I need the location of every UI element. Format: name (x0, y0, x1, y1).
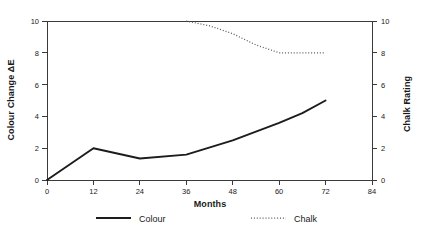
x-tick-label-12: 12 (89, 187, 97, 196)
chart-legend: Colour Chalk (96, 214, 318, 224)
x-tick-label-60: 60 (275, 187, 283, 196)
right-tick-label-4: 4 (381, 112, 385, 121)
x-tick-label-72: 72 (321, 187, 329, 196)
x-axis-title: Months (194, 199, 227, 209)
y-axis-title: Colour Change ΔE (6, 59, 16, 140)
x-tick-label-0: 0 (45, 187, 49, 196)
x-tick-label-84: 84 (368, 187, 376, 196)
left-tick-label-4: 4 (35, 112, 39, 121)
right-tick-label-10: 10 (381, 17, 389, 26)
plot-frame (47, 21, 372, 180)
right-tick-label-0: 0 (381, 176, 385, 185)
left-tick-label-8: 8 (35, 49, 39, 58)
legend-label-colour: Colour (139, 214, 166, 224)
left-tick-label-6: 6 (35, 81, 39, 90)
left-axis-tick-labels: 0 2 4 6 8 10 (31, 17, 39, 185)
right-tick-label-2: 2 (381, 144, 385, 153)
x-tick-label-48: 48 (229, 187, 237, 196)
series-line-colour (47, 101, 326, 181)
x-tick-label-24: 24 (136, 187, 144, 196)
right-tick-label-8: 8 (381, 49, 385, 58)
right-tick-label-6: 6 (381, 81, 385, 90)
left-tick-label-10: 10 (31, 17, 39, 26)
x-axis-ticks (47, 180, 372, 185)
x-axis-tick-labels: 0 12 24 36 48 60 72 84 (45, 187, 376, 196)
left-tick-label-0: 0 (35, 176, 39, 185)
x-tick-label-36: 36 (182, 187, 190, 196)
series-line-chalk (186, 21, 325, 53)
right-axis-ticks (372, 21, 377, 180)
right-axis-tick-labels: 0 2 4 6 8 10 (381, 17, 389, 185)
y2-axis-title: Chalk Rating (402, 76, 412, 132)
legend-label-chalk: Chalk (294, 214, 318, 224)
left-axis-ticks (42, 21, 47, 180)
left-tick-label-2: 2 (35, 144, 39, 153)
dual-axis-line-chart: 0 2 4 6 8 10 0 2 4 6 8 10 0 12 24 36 (0, 0, 424, 231)
